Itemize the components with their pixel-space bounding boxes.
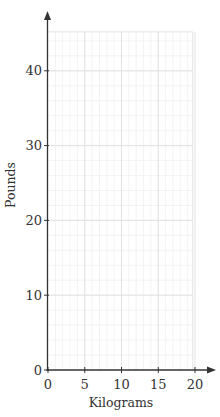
- x-tick-label: 10: [113, 377, 130, 392]
- y-tick-label: 0: [34, 363, 42, 378]
- grid-minor-lines: [48, 32, 193, 370]
- x-tick-label: 15: [150, 377, 167, 392]
- y-tick-label: 30: [25, 138, 42, 153]
- y-tick-label: 40: [25, 63, 42, 78]
- x-tick-label: 20: [187, 377, 204, 392]
- x-axis-ticks: 05101520: [44, 367, 203, 392]
- blank-graph-chart: 05101520 010203040 Kilograms Pounds: [0, 0, 220, 417]
- x-tick-label: 0: [44, 377, 52, 392]
- y-tick-label: 10: [25, 288, 42, 303]
- x-axis-arrow-icon: [207, 367, 216, 374]
- x-axis-label: Kilograms: [89, 395, 154, 410]
- y-tick-label: 20: [25, 213, 42, 228]
- y-axis-arrow-icon: [44, 11, 51, 20]
- y-axis-ticks: 010203040: [25, 63, 49, 377]
- y-axis-label: Pounds: [3, 162, 18, 208]
- x-tick-label: 5: [81, 377, 89, 392]
